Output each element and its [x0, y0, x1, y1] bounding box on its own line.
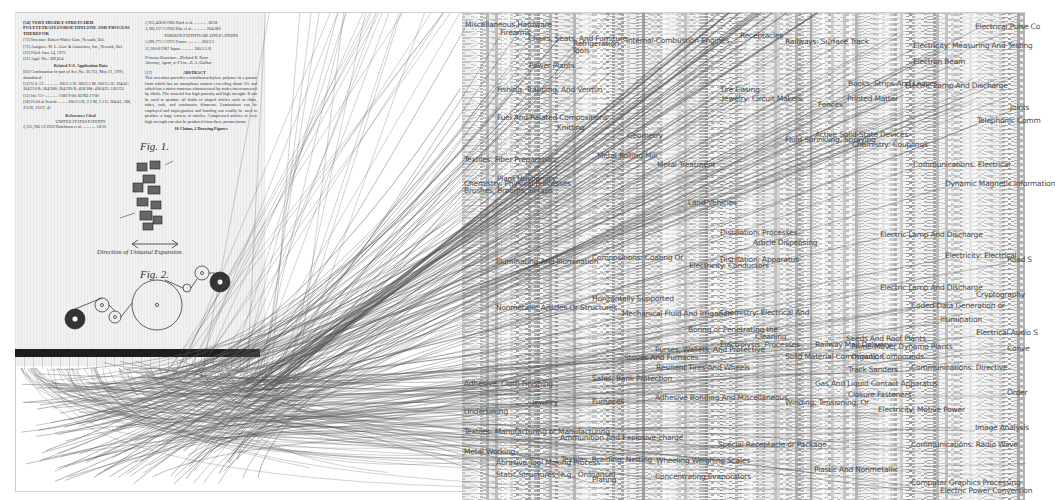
category-label: Special Receptacle or Package — [718, 440, 826, 449]
category-label: Receptacles — [740, 31, 783, 40]
citation-curve — [246, 13, 753, 393]
category-label: Nonmetallic Articles Or Structures — [496, 303, 617, 312]
category-label: Electrical Pulse Co — [975, 22, 1040, 31]
category-label: Ammunition And Explosive-charge — [560, 433, 683, 442]
category-label: Internal-Combustion Engines — [626, 36, 729, 45]
category-label: Electricity: Motive Power — [878, 405, 965, 414]
category-label: Illuminating And Illumination — [496, 257, 598, 266]
citation-curve — [232, 79, 827, 405]
category-label: Fences — [818, 100, 843, 109]
category-label: Telephonic Comm — [977, 116, 1041, 125]
category-label: Compositions: Coating Or — [592, 253, 683, 262]
category-label: Track Sanders — [848, 365, 898, 374]
category-label: Electric Lamp And Discharge — [880, 283, 983, 292]
category-label: Communications: Electrical — [913, 160, 1010, 169]
category-label: Undertaking — [464, 407, 508, 416]
category-label: Coded Data Generation or — [911, 301, 1005, 310]
category-label: Knitting — [557, 123, 585, 132]
category-label: Communications: Radio Wave — [911, 440, 1018, 449]
category-label: Electric Lamp And Discharge — [880, 230, 983, 239]
category-label: Horizontally Supported — [592, 294, 674, 303]
category-label: Plastic And Nonmetallic — [814, 465, 898, 474]
category-label: Furnaces — [592, 397, 624, 406]
category-label: Stoves And Furnaces — [624, 353, 698, 362]
citation-curve — [123, 69, 529, 373]
category-label: Electric Power Conversion — [940, 486, 1032, 495]
category-label: Fuel And Related Compositions — [497, 113, 608, 122]
category-label: Power Plants — [529, 61, 574, 70]
category-label: Jewelry — [532, 398, 558, 407]
category-label: Electrical Audio S — [976, 328, 1038, 337]
category-label: Order — [1007, 388, 1027, 397]
category-label: Communications: Directive — [911, 363, 1008, 372]
category-label: Adhesive, Cloth Finishing — [464, 379, 553, 388]
category-label: Electricity: Electrical — [945, 251, 1017, 260]
category-label: Resilient Tires And Wheels — [656, 363, 750, 372]
category-label: Land Vehicles — [688, 198, 737, 207]
category-label: Jewelry: Circuit Makers — [722, 94, 802, 103]
category-label: Metal Treatment — [657, 160, 715, 169]
category-label: Textiles: Braiding, Netting — [561, 455, 652, 464]
category-label: Concentrating Evaporators — [655, 472, 751, 481]
category-label: Joints — [1010, 103, 1029, 112]
category-label: Wheeling Weighing Scales — [656, 456, 750, 465]
citation-curve — [201, 13, 270, 380]
category-label: Electricity: Conductors — [689, 261, 769, 270]
category-label: Safes, Bank Protection — [592, 374, 672, 383]
category-label: Chemistry: Couplings — [852, 140, 928, 149]
category-label: Gas And Liquid Contact Apparatus — [815, 379, 937, 388]
category-label: Chemistry: Electrical And — [720, 308, 809, 317]
category-label: Image Analysis — [975, 423, 1029, 432]
category-label: Electron Beam — [913, 57, 965, 66]
category-label: Cryptography — [976, 290, 1025, 299]
category-label: Fishing, Trapping, And Vermin — [497, 85, 602, 94]
category-label: Organic Compounds — [851, 352, 924, 361]
category-label: Adhesive Bonding And Miscellaneous — [655, 393, 788, 402]
category-label: Article Dispensing — [753, 238, 817, 247]
category-label: Tools — [572, 46, 589, 55]
category-label: Prime-Mover Dynamo Plants — [851, 342, 952, 351]
category-label: Metal Working — [464, 447, 515, 456]
citation-curve — [110, 115, 591, 476]
category-label: Firearms — [500, 28, 531, 37]
category-label: Winding, Tensioning, Or — [785, 398, 869, 407]
category-label: Plating — [592, 475, 616, 484]
category-label: Mechanical Fluid And Irrigation — [622, 309, 732, 318]
category-label: Textiles: Fiber Preparation — [464, 155, 555, 164]
category-label: Conve — [1007, 344, 1030, 353]
category-label: Tire Casing — [720, 85, 760, 94]
category-label: Printed Matter — [847, 94, 898, 103]
category-label: Dynamic Magnetic Information — [945, 179, 1055, 188]
category-label: Brushes, Brooms, Scraps — [464, 186, 553, 195]
category-label: Electricity: Measuring And Testing — [913, 41, 1033, 50]
category-label: Metal Rolling Mill — [597, 151, 657, 160]
category-label: Road S — [1007, 255, 1032, 264]
category-label: Railways: Surface Track — [785, 37, 869, 46]
category-label: Illumination — [940, 315, 982, 324]
category-label: Electric Lamp And Discharge — [905, 81, 1008, 90]
category-label: Distillation: Processes — [720, 228, 797, 237]
category-label: Geometry — [627, 131, 663, 140]
